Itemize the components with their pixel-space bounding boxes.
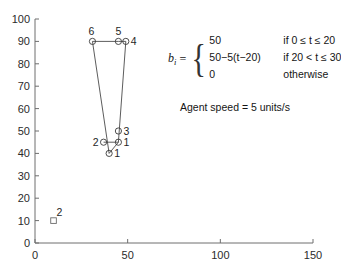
case-row: 50 if 0 ≤ t ≤ 20: [209, 34, 341, 51]
y-tick-label: 80: [18, 58, 30, 70]
formula-cases: 50 if 0 ≤ t ≤ 20 50−5(t−20) if 20 < t ≤ …: [209, 34, 341, 85]
y-tick-label: 90: [18, 35, 30, 47]
case-value: 50−5(t−20): [209, 51, 283, 63]
case-row: 50−5(t−20) if 20 < t ≤ 30: [209, 51, 341, 68]
node-label: 3: [123, 125, 129, 137]
left-brace-icon: {: [192, 41, 206, 78]
case-value: 50: [209, 34, 283, 46]
node-marker-square: [51, 218, 57, 224]
formula-lhs-subscript: i: [174, 58, 176, 68]
case-condition: if 20 < t ≤ 30: [283, 51, 341, 63]
formula-equals: =: [178, 52, 189, 67]
y-tick-label: 50: [18, 125, 30, 137]
node-label: 2: [93, 136, 99, 148]
piecewise-formula: bi = { 50 if 0 ≤ t ≤ 20 50−5(t−20) if 20…: [168, 34, 334, 85]
node-marker-circle: [115, 128, 121, 134]
x-tick-label: 0: [32, 249, 38, 261]
y-tick-label: 100: [12, 13, 30, 25]
y-tick-label: 70: [18, 80, 30, 92]
node-label: 2: [57, 206, 63, 218]
x-tick-label: 50: [122, 249, 134, 261]
case-condition: if 0 ≤ t ≤ 20: [283, 34, 335, 46]
node-label: 1: [114, 147, 120, 159]
node-label: 5: [115, 25, 121, 37]
y-tick-label: 30: [18, 170, 30, 182]
y-tick-label: 0: [24, 237, 30, 249]
markers: 65431212: [51, 25, 137, 223]
y-tick-label: 20: [18, 192, 30, 204]
y-tick-label: 40: [18, 147, 30, 159]
agent-speed-note: Agent speed = 5 units/s: [180, 101, 290, 113]
case-row: 0 otherwise: [209, 68, 341, 85]
x-tick-label: 100: [211, 249, 229, 261]
formula-lhs: bi: [168, 51, 178, 67]
node-label: 6: [89, 25, 95, 37]
x-tick-label: 150: [304, 249, 322, 261]
case-condition: otherwise: [283, 68, 328, 80]
y-tick-label: 10: [18, 215, 30, 227]
y-tick-label: 60: [18, 103, 30, 115]
case-value: 0: [209, 68, 283, 80]
node-label: 1: [123, 136, 129, 148]
node-label: 4: [131, 35, 137, 47]
